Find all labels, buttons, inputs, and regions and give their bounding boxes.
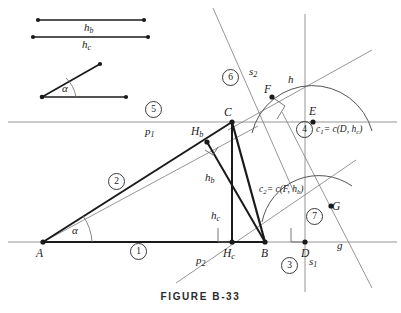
altitude-label-hb: hb (205, 172, 214, 185)
construction-line-s2 (213, 8, 293, 190)
given-angle-upper-ray (42, 64, 100, 97)
vertex-dot-Hc (229, 239, 234, 244)
point-label-Hb: Hb (191, 126, 203, 139)
circle-equation-c2: c2= c(F, hb) (259, 184, 303, 195)
altitude-label-hc: hc (211, 210, 220, 223)
point-label-F: F (264, 84, 271, 96)
line-label-h: h (288, 74, 294, 85)
right-angle-mark-F (272, 97, 285, 119)
given-angle-upper-endpoint (98, 62, 102, 66)
figure-b-33: hb hc α A B C D E F G Hb Hc p1 p2 s1 s2 … (0, 0, 401, 313)
given-segment-hb-endpoint-right (142, 18, 146, 22)
vertex-dot-A (40, 239, 45, 244)
line-label-p1: p1 (145, 126, 154, 139)
given-segment-hb-label: hb (84, 22, 93, 35)
given-angle-label: α (62, 83, 68, 94)
line-label-s2: s2 (249, 66, 257, 79)
point-label-Hc: Hc (223, 248, 235, 261)
point-label-E: E (309, 106, 316, 118)
vertex-dot-B (262, 239, 267, 244)
figure-caption: FIGURE B-33 (0, 291, 401, 302)
given-segment-hc-endpoint-right (146, 35, 150, 39)
line-label-p2: p2 (196, 255, 205, 268)
point-label-B: B (261, 248, 268, 260)
line-label-s1: s1 (309, 256, 317, 269)
step-number-2: 2 (108, 173, 125, 190)
step-number-3: 3 (281, 257, 298, 274)
line-label-g: g (337, 240, 343, 251)
step-number-1: 1 (130, 243, 147, 260)
point-label-C: C (224, 107, 232, 119)
given-angle-vertex (40, 95, 45, 100)
step-number-5: 5 (145, 101, 162, 118)
given-segment-hb-endpoint-left (36, 18, 40, 22)
vertex-dots-group (40, 94, 333, 244)
altitude-hb-segment (207, 142, 265, 242)
point-label-G: G (332, 201, 340, 213)
right-angle-mark-Hc (218, 228, 232, 242)
angle-label-alpha-at-A: α (72, 225, 78, 236)
triangle-side-CB (232, 122, 265, 242)
point-label-A: A (36, 248, 43, 260)
right-angle-mark-D (291, 228, 305, 242)
step-number-6: 6 (222, 69, 239, 86)
construction-line-h (228, 50, 372, 130)
given-segment-hc-endpoint-left (31, 35, 35, 39)
vertex-dot-D (302, 239, 307, 244)
given-angle-lower-endpoint (124, 95, 128, 99)
vertex-dot-Hb (204, 139, 209, 144)
circle-equation-c1: c1= c(D, hc) (316, 124, 362, 135)
step-number-7: 7 (306, 208, 323, 225)
step-number-4: 4 (296, 121, 313, 138)
given-segment-hc-label: hc (82, 39, 91, 52)
vertex-dot-C (229, 119, 234, 124)
